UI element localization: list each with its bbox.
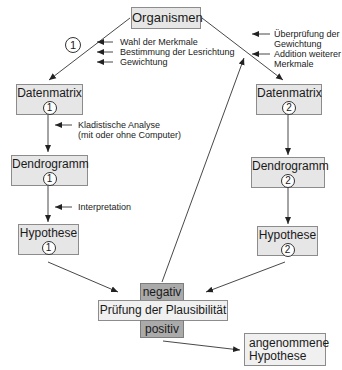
pruefung-box: Prüfung der Plausibilität xyxy=(98,300,228,321)
datenmatrix-1-box: Datenmatrix 1 xyxy=(16,84,83,115)
negativ-box: negativ xyxy=(140,283,184,301)
angenommene-hypothese-box: angenommene Hypothese xyxy=(244,333,326,366)
dendrogramm-2-box: Dendrogramm 2 xyxy=(251,157,325,188)
path-marker-1: 1 xyxy=(65,37,81,53)
organismen-label: Organismen xyxy=(132,10,203,25)
positiv-box: positiv xyxy=(140,320,184,338)
hypothese-1-box: Hypothese 1 xyxy=(18,224,79,255)
number-circle-2: 2 xyxy=(282,101,296,115)
annotation-interpretation: Interpretation xyxy=(78,202,131,212)
number-circle-1: 1 xyxy=(43,172,57,186)
annotation-right-top: Überprüfung der Gewichtung Addition weit… xyxy=(274,29,341,69)
number-circle-1: 1 xyxy=(42,241,56,255)
organismen-box: Organismen xyxy=(131,7,201,29)
dendrogramm-1-box: Dendrogramm 1 xyxy=(11,155,88,186)
annotation-kladistisch: Kladistische Analyse (mit oder ohne Comp… xyxy=(78,120,181,140)
number-circle-1: 1 xyxy=(43,101,57,115)
datenmatrix-2-box: Datenmatrix 2 xyxy=(256,84,322,115)
hypothese-2-box: Hypothese 2 xyxy=(257,226,318,256)
number-circle-2: 2 xyxy=(281,174,295,188)
number-circle-2: 2 xyxy=(281,243,295,257)
annotation-left-top: Wahl der Merkmale Bestimmung der Lesrich… xyxy=(120,37,235,67)
